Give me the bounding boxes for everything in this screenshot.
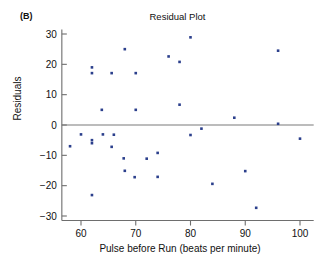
data-point (124, 48, 127, 51)
data-point (124, 170, 127, 173)
data-point (101, 109, 104, 112)
data-point (134, 109, 137, 112)
data-point (91, 72, 94, 75)
data-point (189, 36, 192, 39)
data-point (178, 61, 181, 64)
x-tick-label: 100 (292, 228, 309, 239)
y-tick-label: 0 (51, 120, 57, 131)
y-tick-label: −10 (40, 150, 57, 161)
data-point (233, 116, 236, 119)
data-point (145, 157, 148, 160)
data-point (299, 137, 302, 140)
data-point (91, 66, 94, 69)
x-tick-label: 60 (75, 228, 87, 239)
data-point (178, 103, 181, 106)
data-point (277, 49, 280, 52)
y-tick-label: 20 (46, 59, 58, 70)
data-point (102, 133, 105, 136)
data-point (69, 145, 72, 148)
y-tick-label: −30 (40, 211, 57, 222)
data-point (134, 72, 137, 75)
data-point (80, 133, 83, 136)
x-tick-label: 70 (130, 228, 142, 239)
data-points (69, 36, 302, 209)
data-point (167, 55, 170, 58)
data-point (189, 134, 192, 137)
data-point (277, 122, 280, 125)
data-point (211, 183, 214, 186)
y-tick-label: −20 (40, 180, 57, 191)
data-point (113, 133, 116, 136)
data-point (156, 152, 159, 155)
data-point (91, 142, 94, 145)
data-point (244, 170, 247, 173)
data-point (200, 127, 203, 130)
x-axis: 60708090100 (62, 221, 314, 239)
data-point (91, 139, 94, 142)
data-point (110, 72, 113, 75)
data-point (156, 176, 159, 179)
data-point (110, 146, 113, 149)
y-tick-label: 10 (46, 89, 58, 100)
y-tick-label: 30 (46, 29, 58, 40)
data-point (122, 157, 125, 160)
x-tick-label: 80 (185, 228, 197, 239)
scatter-plot-canvas: 3020100−10−20−30 60708090100 (0, 0, 329, 271)
data-point (133, 176, 136, 179)
x-tick-label: 90 (240, 228, 252, 239)
data-point (91, 194, 94, 197)
data-point (255, 207, 258, 210)
residual-plot-figure: (B) Residual Plot Residuals Pulse before… (0, 0, 329, 271)
